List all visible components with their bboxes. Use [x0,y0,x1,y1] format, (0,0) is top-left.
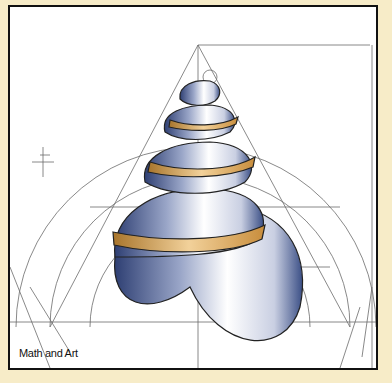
caption-text: Math and Art [19,347,78,359]
shell-illustration [10,7,376,368]
spiral-shell [113,81,303,341]
artwork-frame: Math and Art [8,5,378,370]
